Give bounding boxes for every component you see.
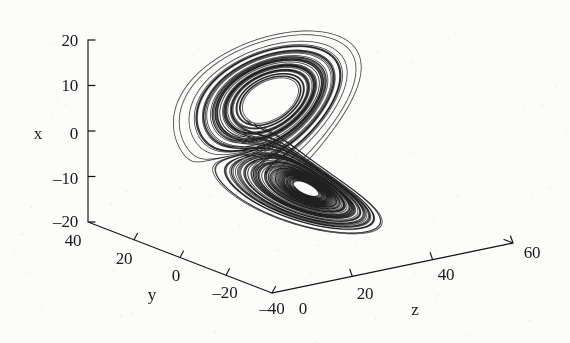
attractor-figure: 20 10 0 –10 –20 x 40 20 0 –20 –40 y 0 20…	[0, 0, 570, 343]
x-tick-label-neg20: –20	[53, 213, 78, 230]
x-tick-label-neg10: –10	[53, 170, 78, 187]
attractor-plot-canvas	[0, 0, 570, 343]
z-tick-label-40: 40	[438, 266, 455, 283]
y-tick-label-neg20: –20	[213, 284, 238, 301]
y-tick-label-neg40: –40	[260, 300, 285, 317]
x-tick-label-0: 0	[70, 125, 78, 142]
y-tick-label-20: 20	[116, 250, 133, 267]
x-tick-label-20: 20	[61, 32, 78, 49]
z-axis-name: z	[411, 301, 419, 318]
x-axis-name: x	[34, 125, 43, 142]
z-tick-label-0: 0	[299, 300, 307, 317]
z-tick-label-20: 20	[357, 285, 374, 302]
y-tick-label-0: 0	[172, 267, 180, 284]
x-tick-label-10: 10	[61, 77, 78, 94]
y-axis-name: y	[148, 286, 157, 303]
y-tick-label-40: 40	[65, 232, 82, 249]
z-tick-label-60: 60	[524, 244, 541, 261]
